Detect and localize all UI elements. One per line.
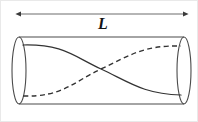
cylinder-wave-figure: L <box>0 0 198 122</box>
front-wave-curve <box>23 45 181 95</box>
cylinder-left-cap-ellipse <box>12 37 26 104</box>
cylinder-right-cap-ellipse <box>177 37 191 104</box>
back-wave-curve <box>23 46 181 96</box>
length-label: L <box>93 15 113 32</box>
